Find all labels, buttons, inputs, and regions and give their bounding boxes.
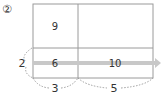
- brace-left-a: [33, 78, 49, 88]
- side-brace-bottom: [26, 67, 33, 78]
- cell-bottom-right: 10: [109, 58, 122, 69]
- area-model-diagram: ② 9 6 10 2 3 5: [0, 0, 164, 99]
- cell-top-left: 9: [52, 21, 58, 32]
- bottom-label-right: 5: [111, 82, 118, 95]
- arrow-head-icon: [155, 58, 161, 68]
- brace-left-b: [61, 78, 78, 88]
- side-label: 2: [19, 57, 26, 70]
- cell-bottom-left: 6: [52, 58, 58, 69]
- bottom-label-left: 3: [52, 82, 59, 95]
- brace-right-a: [78, 78, 107, 88]
- brace-right-b: [121, 78, 153, 88]
- problem-number: ②: [2, 3, 12, 16]
